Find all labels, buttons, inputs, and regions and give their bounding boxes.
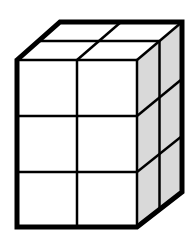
figure-canvas <box>0 0 190 246</box>
cube-prism-diagram <box>0 0 190 246</box>
